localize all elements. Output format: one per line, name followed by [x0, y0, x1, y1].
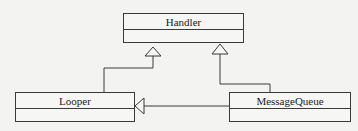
inheritance-arrowhead-icon	[212, 44, 228, 54]
edge-looper-to-handler	[104, 47, 161, 92]
class-name: Looper	[16, 93, 134, 109]
class-name: Handler	[124, 14, 243, 30]
edge-messagequeue-to-looper	[135, 98, 229, 114]
edge-messagequeue-to-handler	[212, 44, 270, 92]
uml-diagram-canvas: Handler Looper MessageQueue	[0, 0, 358, 131]
class-members-compartment	[16, 109, 134, 120]
inheritance-arrowhead-icon	[145, 47, 161, 56]
class-box-looper: Looper	[15, 92, 135, 122]
class-members-compartment	[124, 30, 243, 41]
class-members-compartment	[230, 109, 350, 120]
class-box-messagequeue: MessageQueue	[229, 92, 351, 122]
inheritance-arrowhead-icon	[135, 98, 144, 114]
class-box-handler: Handler	[123, 13, 244, 43]
class-name: MessageQueue	[230, 93, 350, 109]
